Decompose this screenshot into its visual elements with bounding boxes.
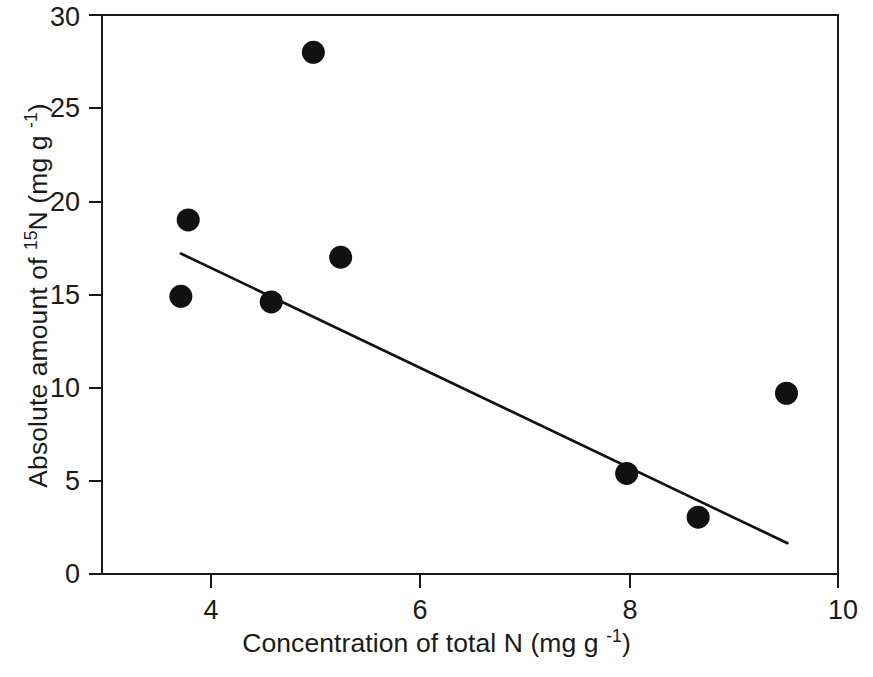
y-tick-label-30: 30 xyxy=(50,2,80,32)
y-axis-tick-labels: 0 5 10 15 20 25 30 xyxy=(50,2,80,589)
data-point xyxy=(302,41,325,64)
data-point xyxy=(615,462,638,485)
data-point xyxy=(775,382,798,405)
data-point xyxy=(177,208,200,231)
x-tick-label-10: 10 xyxy=(828,595,858,625)
y-axis-ticks xyxy=(89,15,102,574)
y-axis-title-mid: N (mg g xyxy=(23,128,53,230)
y-axis-title-isotope: 15 xyxy=(21,230,41,250)
x-axis-ticks xyxy=(211,574,838,588)
y-tick-label-20: 20 xyxy=(50,187,80,217)
x-tick-label-6: 6 xyxy=(412,595,427,625)
data-point xyxy=(329,246,352,269)
y-tick-label-5: 5 xyxy=(65,466,80,496)
y-axis-title: Absolute amount of 15N (mg g -1) xyxy=(23,0,54,596)
y-axis-title-lead: Absolute amount of xyxy=(23,250,53,488)
scatter-plot: 0 5 10 15 20 25 30 4 6 8 10 xyxy=(0,0,873,677)
plot-border xyxy=(102,15,838,574)
x-axis-tick-labels: 4 6 8 10 xyxy=(203,595,858,625)
y-tick-label-25: 25 xyxy=(50,93,80,123)
y-axis-title-exponent: -1 xyxy=(21,112,41,128)
data-point xyxy=(169,285,192,308)
x-axis-title: Concentration of total N (mg g -1) xyxy=(0,628,873,659)
x-axis-title-exponent: -1 xyxy=(606,626,622,646)
y-tick-label-0: 0 xyxy=(65,559,80,589)
y-axis-title-wrapper: Absolute amount of 15N (mg g -1) xyxy=(23,0,54,596)
data-point xyxy=(260,290,283,313)
data-points-group xyxy=(169,41,798,529)
x-tick-label-4: 4 xyxy=(203,595,218,625)
x-axis-title-main: Concentration of total N (mg g xyxy=(242,628,606,658)
data-point xyxy=(687,506,710,529)
x-tick-label-8: 8 xyxy=(622,595,637,625)
plot-frame xyxy=(102,15,838,574)
y-axis-title-tail: ) xyxy=(23,103,53,112)
x-axis-title-tail: ) xyxy=(622,628,631,658)
y-tick-label-10: 10 xyxy=(50,373,80,403)
y-tick-label-15: 15 xyxy=(50,280,80,310)
figure-container: 0 5 10 15 20 25 30 4 6 8 10 Concentrati xyxy=(0,0,873,677)
